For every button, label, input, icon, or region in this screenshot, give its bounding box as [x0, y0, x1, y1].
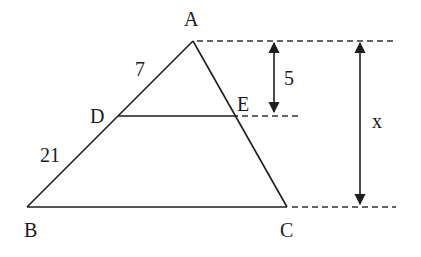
side-ac: [193, 41, 287, 207]
label-d: D: [90, 105, 104, 127]
label-large-height: x: [372, 110, 382, 132]
label-a: A: [184, 8, 199, 30]
label-ad-length: 7: [135, 58, 145, 80]
label-e: E: [237, 93, 249, 115]
label-c: C: [280, 219, 293, 241]
side-ab: [27, 41, 193, 207]
label-small-height: 5: [284, 67, 294, 89]
label-db-length: 21: [40, 144, 60, 166]
similar-triangles-diagram: A B C D E 7 21 5 x: [0, 0, 421, 257]
label-b: B: [24, 219, 37, 241]
